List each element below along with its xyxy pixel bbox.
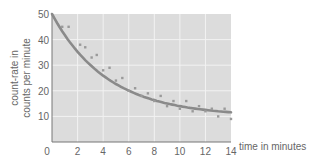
x-tick-label: 0 <box>44 146 50 157</box>
data-point <box>198 105 200 107</box>
data-point <box>84 46 86 48</box>
data-point <box>166 105 168 107</box>
x-tick-label: 4 <box>100 146 106 157</box>
x-tick-label: 12 <box>200 146 212 157</box>
x-tick-label: 8 <box>152 146 158 157</box>
x-tick-label: 2 <box>75 146 81 157</box>
y-tick-label: 50 <box>38 9 50 20</box>
y-tick-labels: 1020304050 <box>38 9 50 122</box>
data-point <box>134 87 136 89</box>
decay-chart: 1020304050 02468101214 time in minutes c… <box>0 0 324 157</box>
y-axis-label-line-1: count-rate in <box>9 50 20 106</box>
y-tick-label: 40 <box>38 35 50 46</box>
data-point <box>159 95 161 97</box>
x-tick-label: 10 <box>174 146 186 157</box>
data-point <box>147 92 149 94</box>
y-axis-label: count-rate in counts per minute <box>9 38 32 118</box>
data-point <box>230 118 232 120</box>
data-point <box>223 108 225 110</box>
x-axis-label: time in minutes <box>239 141 306 152</box>
data-point <box>185 100 187 102</box>
data-point <box>128 90 130 92</box>
y-axis-label-line-2: counts per minute <box>21 38 32 118</box>
x-tick-labels: 02468101214 <box>44 146 237 157</box>
data-point <box>108 67 110 69</box>
data-point <box>79 44 81 46</box>
y-tick-label: 10 <box>38 111 50 122</box>
data-point <box>140 95 142 97</box>
data-point <box>217 115 219 117</box>
data-point <box>191 110 193 112</box>
plot-area <box>52 14 231 142</box>
data-point <box>179 108 181 110</box>
x-tick-label: 6 <box>126 146 132 157</box>
data-point <box>211 108 213 110</box>
data-point <box>121 77 123 79</box>
data-point <box>90 56 92 58</box>
x-tick-label: 14 <box>225 146 237 157</box>
data-point <box>96 54 98 56</box>
data-point <box>67 26 69 28</box>
data-point <box>204 110 206 112</box>
data-point <box>153 100 155 102</box>
y-tick-label: 20 <box>38 86 50 97</box>
y-tick-label: 30 <box>38 60 50 71</box>
data-point <box>172 100 174 102</box>
data-point <box>61 26 63 28</box>
data-point <box>115 79 117 81</box>
data-point <box>102 69 104 71</box>
